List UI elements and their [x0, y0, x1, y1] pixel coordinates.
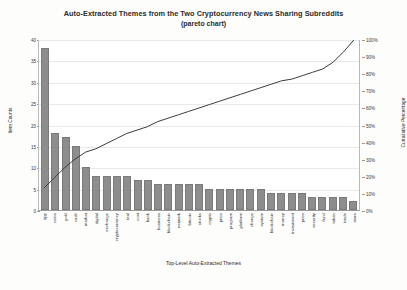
- x-axis-category-label: store: [352, 213, 357, 223]
- chart-subtitle: (pareto chart): [0, 19, 407, 29]
- x-axis-category: cost: [132, 213, 142, 257]
- x-axis-category: price: [297, 213, 307, 257]
- bar: [164, 184, 172, 210]
- x-axis-category-label: stocks: [197, 213, 202, 225]
- x-axis-category-label: market: [83, 213, 88, 226]
- x-axis-category-label: cost: [135, 213, 140, 221]
- y-axis-right-tick: 50%: [366, 123, 375, 128]
- x-axis-category: exchange: [101, 213, 111, 257]
- bar-slot: [317, 40, 327, 210]
- y-axis-right-tickmark: [362, 91, 365, 92]
- chart-title-block: Auto-Extracted Themes from the Two Crypt…: [0, 9, 407, 29]
- x-axis-category-label: platform: [238, 213, 243, 229]
- x-axis-category: business: [153, 213, 163, 257]
- x-axis-category-label: blockchain: [166, 213, 171, 233]
- x-axis-category-label: system: [259, 213, 264, 227]
- x-axis-category-label: gold: [62, 213, 67, 221]
- bar-slot: [225, 40, 235, 210]
- x-axis-category: fund: [318, 213, 328, 257]
- bar-slot: [194, 40, 204, 210]
- y-axis-left-tick: 10: [31, 166, 36, 171]
- y-axis-right-tick: 100%: [366, 38, 378, 43]
- x-axis-category: trade: [339, 213, 349, 257]
- y-axis-left-title: Item Counts: [8, 93, 13, 149]
- bar: [82, 167, 90, 210]
- x-axis-category: cash: [70, 213, 80, 257]
- x-axis-category-label: digital: [93, 213, 98, 224]
- bar: [154, 184, 162, 210]
- y-axis-right-title: Cumulative Percentage: [401, 92, 406, 154]
- x-axis-category: money: [277, 213, 287, 257]
- y-axis-right-tickmark: [362, 57, 365, 58]
- bar: [349, 201, 357, 210]
- bar-slot: [256, 40, 266, 210]
- x-axis-categories: appcoinsgoldcashmarketdigitalexchangecry…: [38, 213, 360, 257]
- x-axis-category-label: investment: [290, 213, 295, 234]
- y-axis-right-tick: 40%: [366, 140, 375, 145]
- y-axis-right-tickmark: [362, 160, 365, 161]
- x-axis-category-label: program: [228, 213, 233, 229]
- y-axis-right-tick: 20%: [366, 174, 375, 179]
- x-axis-category: app: [39, 213, 49, 257]
- x-axis-category-label: money: [279, 213, 284, 226]
- x-axis-category: system: [256, 213, 266, 257]
- x-axis-category-label: bank: [145, 213, 150, 222]
- bar-slot: [132, 40, 142, 210]
- bar-series: [39, 40, 359, 210]
- y-axis-left-tick: 25: [31, 102, 36, 107]
- bar-slot: [327, 40, 337, 210]
- x-axis-category-label: app: [42, 213, 47, 220]
- bar-slot: [153, 40, 163, 210]
- bar: [246, 189, 254, 210]
- x-axis-category-label: security: [310, 213, 315, 228]
- bar: [339, 197, 347, 210]
- bar: [236, 189, 244, 210]
- plot-area: [38, 40, 360, 211]
- x-axis-category-label: change: [248, 213, 253, 227]
- x-axis-category-label: blockchain: [269, 213, 274, 233]
- x-axis-category: crypto: [204, 213, 214, 257]
- y-axis-left-tick: 20: [31, 123, 36, 128]
- y-axis-right-tickmark: [362, 40, 365, 41]
- bar-slot: [143, 40, 153, 210]
- x-axis-category-label: price: [300, 213, 305, 222]
- y-axis-left-tick: 40: [31, 38, 36, 43]
- bar: [92, 176, 100, 210]
- x-axis-category: network: [173, 213, 183, 257]
- y-axis-right-tickmark: [362, 74, 365, 75]
- x-axis-category: blockchain: [163, 213, 173, 257]
- x-axis-category: store: [349, 213, 359, 257]
- bar-slot: [235, 40, 245, 210]
- bar-slot: [276, 40, 286, 210]
- x-axis-category: blockchain: [266, 213, 276, 257]
- bar-slot: [112, 40, 122, 210]
- x-axis-category: cryptocurrency: [111, 213, 121, 257]
- bar-slot: [173, 40, 183, 210]
- bar-slot: [61, 40, 71, 210]
- bar-slot: [102, 40, 112, 210]
- x-axis-category-label: business: [155, 213, 160, 230]
- x-axis-category: coins: [49, 213, 59, 257]
- y-axis-right-tick: 10%: [366, 191, 375, 196]
- bar: [216, 189, 224, 210]
- bar: [329, 197, 337, 210]
- bar: [123, 176, 131, 210]
- bar-slot: [81, 40, 91, 210]
- x-axis-category: price: [215, 213, 225, 257]
- x-axis-category-label: network: [176, 213, 181, 228]
- x-axis-category: change: [246, 213, 256, 257]
- bar: [308, 197, 316, 210]
- bar-slot: [204, 40, 214, 210]
- bar-slot: [266, 40, 276, 210]
- y-axis-left-tick: 5: [33, 187, 36, 192]
- x-axis-category-label: cash: [73, 213, 78, 222]
- x-axis-title: Top-Level Auto-Extracted Themes: [0, 260, 407, 266]
- x-axis-category: security: [308, 213, 318, 257]
- bar: [195, 184, 203, 210]
- bar: [51, 133, 59, 210]
- x-axis-category-label: exchange: [104, 213, 109, 232]
- y-axis-right-tick: 0%: [366, 209, 373, 214]
- bar-slot: [338, 40, 348, 210]
- y-axis-right-tick: 70%: [366, 89, 375, 94]
- x-axis-category: gold: [60, 213, 70, 257]
